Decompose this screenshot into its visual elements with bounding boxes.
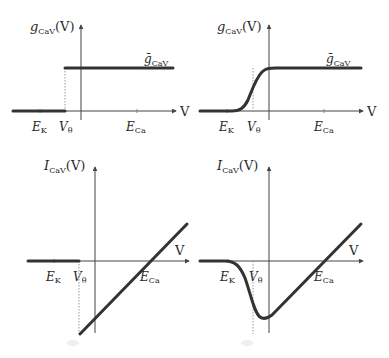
shadow-smudge (67, 340, 79, 346)
curve-sigmoid (200, 68, 361, 111)
tick-label-ek: EK (218, 120, 235, 135)
level-label: ḡCaV (144, 52, 169, 68)
curve-linear (80, 224, 187, 334)
y-axis-label: ICaV(V) (216, 158, 258, 175)
y-axis-label: ICaV(V) (43, 158, 85, 175)
tick-label-eca: ECa (313, 270, 334, 285)
tick-label-eca: ECa (313, 120, 334, 135)
tick-label-eca: ECa (139, 270, 160, 285)
y-axis-label: gCaV(V) (30, 19, 75, 36)
tick-label-vtheta: Vθ (247, 120, 261, 135)
y-axis-label: gCaV(V) (217, 19, 262, 36)
x-axis-label: V (348, 243, 359, 258)
x-axis-label: V (174, 243, 185, 258)
shadow-smudge (241, 340, 253, 346)
tick-label-vtheta: Vθ (249, 270, 263, 285)
panel-g-sigmoid: gCaV(V) ḡCaV V EK Vθ ECa (200, 19, 377, 135)
panel-g-step: gCaV(V) ḡCaV V EK Vθ ECa (12, 19, 190, 135)
tick-label-ek: EK (31, 120, 48, 135)
panel-I-smooth: ICaV(V) V EK Vθ ECa (200, 158, 363, 346)
tick-label-eca: ECa (125, 120, 146, 135)
panel-I-step: ICaV(V) V EK Vθ ECa (27, 158, 189, 346)
x-axis-label: V (366, 104, 377, 119)
tick-label-ek: EK (45, 270, 62, 285)
tick-label-ek: EK (219, 270, 236, 285)
level-label: ḡCaV (326, 52, 351, 68)
tick-label-vtheta: Vθ (59, 120, 73, 135)
tick-label-vtheta: Vθ (73, 270, 87, 285)
figure: gCaV(V) ḡCaV V EK Vθ ECa gCaV(V) ḡCaV V … (0, 0, 389, 358)
x-axis-label: V (179, 104, 190, 119)
